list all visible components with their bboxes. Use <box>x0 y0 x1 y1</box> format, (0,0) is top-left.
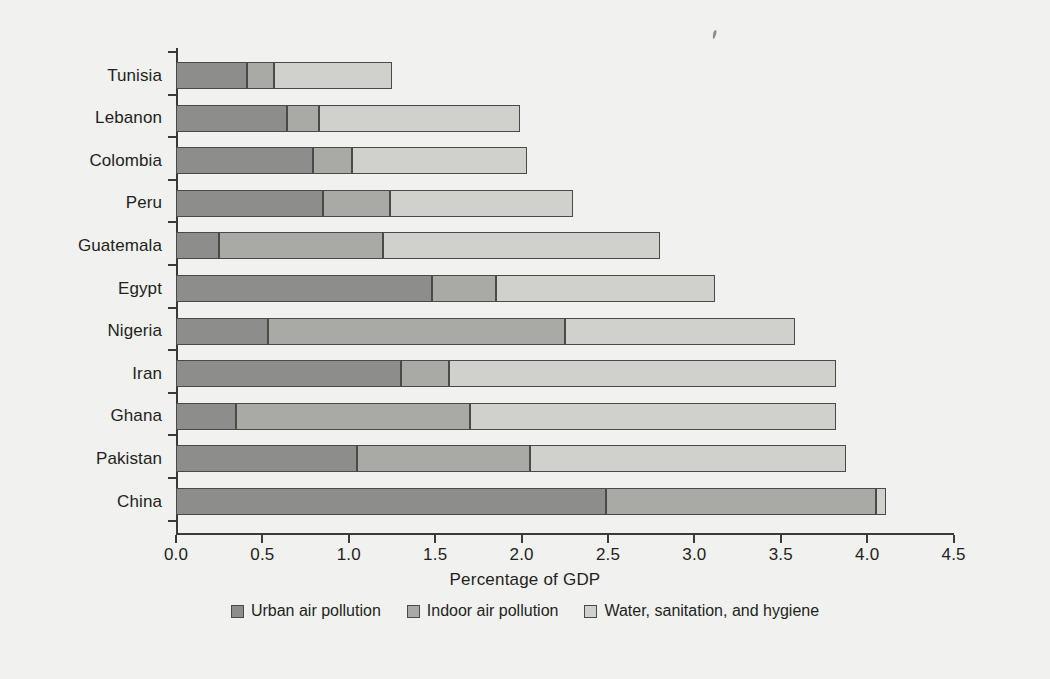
y-axis-tick <box>168 392 176 394</box>
bar-segment <box>268 318 565 345</box>
category-label: Lebanon <box>95 108 162 128</box>
bar-segment <box>176 190 323 217</box>
y-axis-tick <box>168 136 176 138</box>
legend-label: Indoor air pollution <box>427 602 559 620</box>
bar-segment <box>383 232 659 259</box>
bar-segment <box>247 62 275 89</box>
x-axis-tick-label: 4.5 <box>941 545 965 565</box>
bar-segment <box>176 318 268 345</box>
category-label: Nigeria <box>107 321 162 341</box>
bar-segment <box>176 232 219 259</box>
bar-segment <box>530 445 846 472</box>
category-label: China <box>117 492 162 512</box>
x-axis-tick <box>434 535 436 543</box>
bar-segment <box>449 360 836 387</box>
x-axis-tick-label: 3.0 <box>682 545 706 565</box>
legend-item: Water, sanitation, and hygiene <box>584 602 819 620</box>
legend-swatch-icon <box>407 605 420 618</box>
bar-segment <box>357 445 530 472</box>
category-label: Ghana <box>110 406 162 426</box>
legend-item: Urban air pollution <box>231 602 381 620</box>
x-axis-tick <box>607 535 609 543</box>
bar-segment <box>876 488 886 515</box>
x-axis-tick <box>866 535 868 543</box>
category-label: Guatemala <box>78 236 162 256</box>
x-axis-tick-label: 0.0 <box>164 545 188 565</box>
legend-label: Urban air pollution <box>251 602 381 620</box>
x-axis-tick <box>693 535 695 543</box>
category-label: Iran <box>132 364 162 384</box>
bar-row <box>176 318 795 345</box>
y-axis-tick <box>168 179 176 181</box>
bar-segment <box>390 190 573 217</box>
bar-segment <box>176 275 432 302</box>
chart-legend: Urban air pollutionIndoor air pollutionW… <box>0 602 1050 620</box>
x-axis-line <box>176 533 954 535</box>
bar-segment <box>352 147 527 174</box>
bar-row <box>176 105 520 132</box>
category-label: Peru <box>126 193 162 213</box>
x-axis-tick-label: 3.5 <box>769 545 793 565</box>
bar-segment <box>319 105 519 132</box>
x-axis-tick-label: 1.0 <box>337 545 361 565</box>
x-axis-tick-label: 4.0 <box>855 545 879 565</box>
bar-segment <box>176 488 606 515</box>
x-axis-tick <box>261 535 263 543</box>
chart-figure: 0.00.51.01.52.02.53.03.54.04.5 TunisiaLe… <box>0 0 1050 679</box>
x-axis-tick-label: 2.5 <box>596 545 620 565</box>
bar-segment <box>219 232 383 259</box>
bar-row <box>176 190 573 217</box>
y-axis-tick <box>168 51 176 53</box>
category-label: Pakistan <box>96 449 162 469</box>
bar-segment <box>176 62 247 89</box>
bar-row <box>176 275 715 302</box>
category-label: Egypt <box>118 279 162 299</box>
x-axis-tick-label: 0.5 <box>250 545 274 565</box>
y-axis-tick <box>168 349 176 351</box>
x-axis-tick-label: 2.0 <box>509 545 533 565</box>
bar-segment <box>565 318 795 345</box>
y-axis-tick <box>168 307 176 309</box>
legend-swatch-icon <box>584 605 597 618</box>
x-axis-tick-label: 1.5 <box>423 545 447 565</box>
y-axis-tick <box>168 221 176 223</box>
bar-row <box>176 488 886 515</box>
bar-row <box>176 62 392 89</box>
x-axis-tick <box>175 535 177 543</box>
x-axis-title: Percentage of GDP <box>0 570 1050 590</box>
bar-segment <box>606 488 876 515</box>
bar-row <box>176 147 527 174</box>
bar-row <box>176 232 660 259</box>
x-axis-tick <box>348 535 350 543</box>
bar-segment <box>313 147 353 174</box>
y-axis-tick <box>168 434 176 436</box>
bar-segment <box>176 105 287 132</box>
x-axis-tick <box>521 535 523 543</box>
bar-segment <box>432 275 496 302</box>
bar-segment <box>236 403 469 430</box>
y-axis-tick <box>168 264 176 266</box>
y-axis-tick <box>168 94 176 96</box>
y-axis-tick <box>168 520 176 522</box>
bar-segment <box>401 360 449 387</box>
bar-segment <box>274 62 392 89</box>
legend-swatch-icon <box>231 605 244 618</box>
bar-segment <box>496 275 715 302</box>
bar-segment <box>176 147 313 174</box>
legend-item: Indoor air pollution <box>407 602 559 620</box>
legend-label: Water, sanitation, and hygiene <box>604 602 819 620</box>
x-axis-tick <box>780 535 782 543</box>
category-label: Tunisia <box>107 66 162 86</box>
bar-segment <box>470 403 836 430</box>
x-axis-tick <box>953 535 955 543</box>
bar-segment <box>287 105 320 132</box>
bar-row <box>176 445 846 472</box>
bar-segment <box>323 190 390 217</box>
bar-row <box>176 360 836 387</box>
bar-segment <box>176 403 236 430</box>
bar-segment <box>176 360 401 387</box>
category-label: Colombia <box>89 151 162 171</box>
bar-row <box>176 403 836 430</box>
bar-segment <box>176 445 357 472</box>
y-axis-tick <box>168 477 176 479</box>
